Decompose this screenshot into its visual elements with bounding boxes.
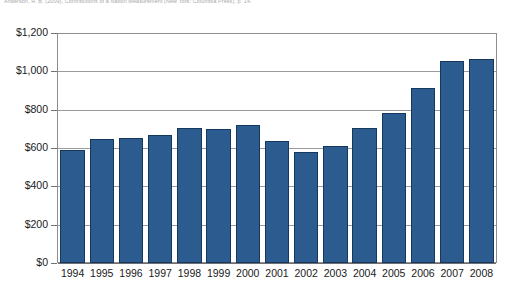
y-tick-label: $800: [25, 103, 48, 116]
bar[interactable]: [236, 125, 261, 263]
y-tick-label: $1,200: [16, 26, 48, 39]
x-tick-label: 1997: [146, 266, 175, 280]
bar[interactable]: [265, 141, 290, 263]
y-tick-label: $600: [25, 141, 48, 154]
y-tick-label: $1,000: [16, 64, 48, 77]
bar[interactable]: [411, 88, 436, 263]
x-axis: 1994199519961997199819992000200120022003…: [58, 266, 496, 286]
x-tick-label: 2004: [350, 266, 379, 280]
x-tick-label: 1998: [175, 266, 204, 280]
y-axis: $0$200$400$600$800$1,000$1,200: [0, 33, 57, 263]
bar-slot: [262, 34, 291, 263]
bar[interactable]: [440, 61, 465, 263]
bar-slot: [438, 34, 467, 263]
bar-slot: [467, 34, 496, 263]
x-tick-label: 2002: [292, 266, 321, 280]
bar[interactable]: [323, 146, 348, 263]
x-tick-label: 2007: [438, 266, 467, 280]
bar-slot: [408, 34, 437, 263]
x-tick-label: 2003: [321, 266, 350, 280]
bar[interactable]: [206, 129, 231, 263]
x-tick-label: 2001: [262, 266, 291, 280]
bar[interactable]: [382, 113, 407, 263]
bar[interactable]: [119, 138, 144, 263]
bar-slot: [87, 34, 116, 263]
bar[interactable]: [294, 152, 319, 263]
y-tick-label: $0: [36, 256, 48, 269]
x-tick-label: 2008: [467, 266, 496, 280]
bar[interactable]: [469, 59, 494, 263]
bar[interactable]: [60, 150, 85, 263]
x-tick-label: 2005: [379, 266, 408, 280]
bar[interactable]: [148, 135, 173, 263]
bar-series: [58, 34, 496, 263]
x-tick-label: 1995: [87, 266, 116, 280]
bar-slot: [233, 34, 262, 263]
x-tick-label: 1994: [58, 266, 87, 280]
bar-slot: [116, 34, 145, 263]
bar-slot: [58, 34, 87, 263]
bar-chart-figure: $0$200$400$600$800$1,000$1,200 199419951…: [0, 0, 514, 295]
x-tick-label: 2000: [233, 266, 262, 280]
bar[interactable]: [90, 139, 115, 263]
x-tick-label: 2006: [408, 266, 437, 280]
y-tick-label: $200: [25, 218, 48, 231]
bar[interactable]: [177, 128, 202, 263]
bar-slot: [379, 34, 408, 263]
bar-slot: [292, 34, 321, 263]
bar-slot: [146, 34, 175, 263]
y-tick-label: $400: [25, 179, 48, 192]
y-tick-mark: [51, 263, 57, 264]
x-tick-label: 1999: [204, 266, 233, 280]
bar-slot: [204, 34, 233, 263]
bar-slot: [175, 34, 204, 263]
x-tick-label: 1996: [116, 266, 145, 280]
bar[interactable]: [352, 128, 377, 263]
bar-slot: [350, 34, 379, 263]
bar-slot: [321, 34, 350, 263]
gridline-0: [58, 263, 496, 264]
